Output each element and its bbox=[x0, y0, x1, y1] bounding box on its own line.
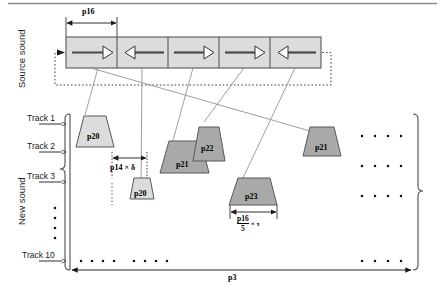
track-label-1: Track 1 bbox=[27, 113, 55, 123]
grain-duration-label: p16 5 × τ bbox=[237, 215, 260, 233]
grain-label-p22: p22 bbox=[201, 144, 213, 153]
new-sound-right-bracket bbox=[413, 114, 423, 270]
track-label-10: Track 10 bbox=[22, 250, 55, 260]
grain-duration-numerator: p16 bbox=[237, 215, 249, 223]
dot-row-track-3 bbox=[361, 195, 403, 198]
dot-row-track-10 bbox=[361, 260, 403, 263]
grain-label-p23: p23 bbox=[245, 192, 257, 201]
track-vertical-ellipsis bbox=[54, 207, 57, 240]
new-sound-left-bracket bbox=[60, 114, 70, 270]
diagram-svg bbox=[0, 0, 443, 299]
dot-row-track-2 bbox=[361, 165, 403, 168]
p16-dimension-bracket bbox=[66, 17, 117, 37]
track-label-2: Track 2 bbox=[27, 141, 55, 151]
grain-duration-tail: × τ bbox=[251, 220, 260, 228]
grain-label-p21-a: p21 bbox=[176, 160, 188, 169]
grain-duration-denominator: 5 bbox=[241, 225, 245, 233]
p3-dimension-label: p3 bbox=[228, 273, 236, 282]
source-sound-axis-label: Source sound bbox=[16, 29, 27, 88]
p16-dimension-label: p16 bbox=[82, 7, 94, 16]
dot-group-bottom-left bbox=[80, 260, 116, 263]
grain-label-p20-b: p20 bbox=[134, 189, 146, 198]
dot-row-track-1 bbox=[361, 135, 403, 138]
p14-delta-label: p14 × δ bbox=[110, 163, 135, 172]
new-sound-axis-label: New sound bbox=[16, 177, 27, 225]
grain-label-p20-a: p20 bbox=[87, 132, 99, 141]
dot-group-bottom-middle bbox=[133, 260, 169, 263]
figure-canvas: Source sound New sound Track 1 Track 2 T… bbox=[0, 0, 443, 299]
track-label-3: Track 3 bbox=[27, 171, 55, 181]
grain-label-p21-b: p21 bbox=[315, 143, 327, 152]
